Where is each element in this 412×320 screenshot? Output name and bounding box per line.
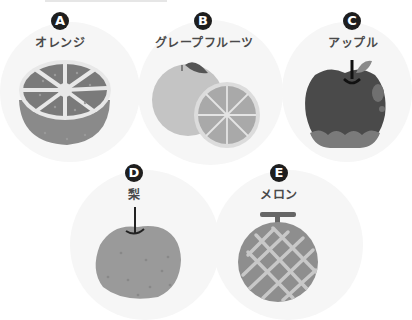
- badge-a: A: [51, 12, 69, 30]
- orange-icon: [15, 55, 115, 150]
- grapefruit-icon: [140, 55, 270, 160]
- pear-icon: [88, 205, 188, 305]
- top-divider: [45, 0, 167, 2]
- badge-d: D: [125, 164, 143, 182]
- label-pear: 梨: [128, 185, 141, 202]
- melon-icon: [228, 200, 338, 310]
- label-orange: オレンジ: [35, 33, 85, 50]
- badge-c: C: [343, 12, 361, 30]
- apple-icon: [300, 55, 390, 155]
- label-apple: アップル: [328, 33, 378, 50]
- badge-b: B: [194, 12, 212, 30]
- label-grapefruit: グレープフルーツ: [155, 33, 254, 50]
- badge-e: E: [270, 164, 288, 182]
